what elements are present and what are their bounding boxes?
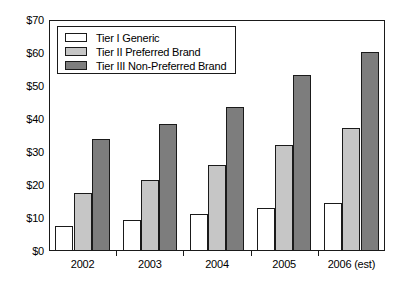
bar-2002-tier1 — [55, 226, 73, 251]
bar-2004-tier1 — [190, 214, 208, 251]
y-tick-label: $50 — [26, 80, 44, 92]
bar-2003-tier1 — [123, 220, 141, 251]
legend-item-label: Tier I Generic — [96, 32, 159, 44]
bar-chart-figure: $0$10$20$30$40$50$60$70 2002200320042005… — [0, 0, 407, 286]
legend-item: Tier III Non-Preferred Brand — [65, 59, 229, 72]
bar-2006-est--tier1 — [324, 203, 342, 251]
bar-2006-est--tier3 — [361, 52, 379, 251]
y-tick-label: $10 — [26, 212, 44, 224]
bar-2004-tier3 — [226, 107, 244, 251]
bar-2005-tier2 — [275, 145, 293, 251]
bar-2004-tier2 — [208, 165, 226, 251]
bar-2006-est--tier2 — [342, 128, 360, 251]
legend-item-label: Tier II Preferred Brand — [96, 46, 200, 58]
legend-item: Tier II Preferred Brand — [65, 45, 229, 58]
x-tick-label: 2005 — [272, 258, 296, 270]
y-tick-label: $30 — [26, 146, 44, 158]
bar-2003-tier3 — [159, 124, 177, 251]
x-tick-label: 2003 — [138, 258, 162, 270]
y-axis: $0$10$20$30$40$50$60$70 — [0, 20, 44, 251]
y-tick-label: $60 — [26, 47, 44, 59]
y-tick-label: $0 — [32, 245, 44, 257]
y-tick-label: $20 — [26, 179, 44, 191]
x-tick-mark — [251, 251, 252, 256]
bar-2005-tier3 — [293, 75, 311, 251]
bar-2003-tier2 — [141, 180, 159, 251]
chart-legend: Tier I GenericTier II Preferred BrandTie… — [57, 26, 236, 74]
legend-item-label: Tier III Non-Preferred Brand — [96, 60, 226, 72]
bar-2005-tier1 — [257, 208, 275, 251]
y-tick-label: $40 — [26, 113, 44, 125]
y-tick-label: $70 — [26, 14, 44, 26]
legend-swatch-icon — [65, 33, 87, 42]
legend-swatch-icon — [65, 47, 87, 56]
x-tick-label: 2004 — [205, 258, 229, 270]
x-tick-label: 2002 — [71, 258, 95, 270]
x-tick-mark — [116, 251, 117, 256]
legend-item: Tier I Generic — [65, 31, 229, 44]
x-tick-mark — [318, 251, 319, 256]
x-tick-label: 2006 (est) — [328, 258, 376, 270]
bar-2002-tier2 — [74, 193, 92, 251]
legend-swatch-icon — [65, 61, 87, 70]
x-tick-mark — [183, 251, 184, 256]
bar-2002-tier3 — [92, 139, 110, 251]
